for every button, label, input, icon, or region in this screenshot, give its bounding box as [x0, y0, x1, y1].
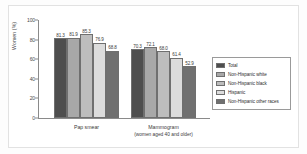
legend-item-label: Total	[228, 63, 237, 68]
plot-area: 020406080100 81.381.985.376.968.870.372.…	[38, 20, 210, 118]
bar-slot: 68.0	[157, 20, 170, 118]
legend-swatch-icon	[216, 90, 225, 96]
legend-swatch-icon	[216, 81, 225, 87]
bar[interactable]	[67, 38, 80, 118]
bar-value-label: 68.0	[159, 46, 167, 51]
bar[interactable]	[106, 51, 119, 118]
legend-item-label: Non-Hispanic black	[228, 81, 267, 86]
bar[interactable]	[170, 58, 183, 118]
bar[interactable]	[157, 51, 170, 118]
legend-swatch-icon	[216, 99, 225, 105]
y-axis-tick-mark	[35, 20, 38, 21]
legend-item[interactable]: Non-Hispanic black	[216, 79, 287, 88]
bar[interactable]	[183, 66, 196, 118]
bar-group-pap-smear: 81.381.985.376.968.8	[54, 20, 119, 118]
bar-slot: 70.3	[131, 20, 144, 118]
bar-slot: 81.9	[67, 20, 80, 118]
legend-swatch-icon	[216, 72, 225, 78]
bar-value-label: 81.3	[56, 33, 64, 38]
bar-slot: 68.8	[106, 20, 119, 118]
bar[interactable]	[54, 38, 67, 118]
bar-value-label: 61.4	[172, 52, 180, 57]
x-axis-label-mammogram-line2: (women aged 40 and older)	[114, 131, 214, 138]
bar[interactable]	[93, 43, 106, 118]
bar-value-label: 76.9	[95, 37, 103, 42]
legend-item-label: Hispanic	[228, 90, 245, 95]
bar[interactable]	[80, 34, 93, 118]
chart-figure: Women (%) 020406080100 81.381.985.376.96…	[0, 0, 307, 154]
y-axis-tick-mark	[35, 78, 38, 79]
y-axis-tick-mark	[35, 39, 38, 40]
legend-item-label: Non-Hispanic other races	[228, 99, 279, 104]
legend-item[interactable]: Non-Hispanic white	[216, 70, 287, 79]
bar-value-label: 72.1	[146, 42, 154, 47]
bar-slot: 52.9	[183, 20, 196, 118]
bar-value-label: 85.3	[82, 29, 90, 34]
legend-item[interactable]: Total	[216, 61, 287, 70]
legend-item[interactable]: Non-Hispanic other races	[216, 97, 287, 106]
chart-legend: TotalNon-Hispanic whiteNon-Hispanic blac…	[212, 57, 291, 110]
legend-item-label: Non-Hispanic white	[228, 72, 267, 77]
bar-slot: 61.4	[170, 20, 183, 118]
y-axis-tick-mark	[35, 98, 38, 99]
legend-item[interactable]: Hispanic	[216, 88, 287, 97]
bar[interactable]	[131, 49, 144, 118]
bar-slot: 76.9	[93, 20, 106, 118]
x-axis-label-mammogram-line1: Mammogram	[114, 124, 214, 131]
bar-value-label: 68.8	[108, 45, 116, 50]
y-axis-tick-mark	[35, 59, 38, 60]
legend-swatch-icon	[216, 63, 225, 69]
bar-group-mammogram: 70.372.168.061.452.9	[131, 20, 196, 118]
bar-slot: 72.1	[144, 20, 157, 118]
bar-value-label: 70.3	[133, 44, 141, 49]
y-axis-tick-mark	[35, 118, 38, 119]
bar-slot: 81.3	[54, 20, 67, 118]
bar-slot: 85.3	[80, 20, 93, 118]
x-axis-label-mammogram: Mammogram (women aged 40 and older)	[114, 124, 214, 138]
y-axis-title: Women (%)	[11, 22, 17, 50]
bar-value-label: 81.9	[69, 32, 77, 37]
bar[interactable]	[144, 47, 157, 118]
x-axis-line	[38, 118, 210, 119]
bar-value-label: 52.9	[185, 61, 193, 66]
